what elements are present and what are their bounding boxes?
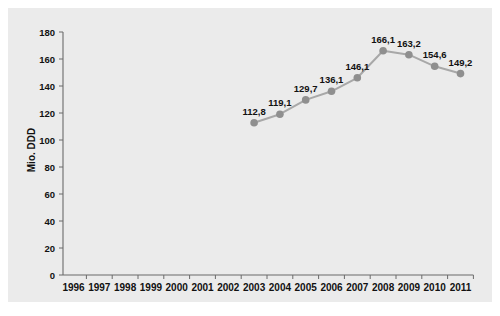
x-tick-label: 2008 [372, 282, 395, 293]
data-point-marker [457, 70, 465, 78]
y-tick-label: 100 [39, 135, 55, 146]
data-point-label: 136,1 [320, 74, 344, 85]
x-tick-label: 2002 [217, 282, 240, 293]
y-axis-title: Mio. DDD [26, 128, 37, 172]
x-tick-label: 2004 [269, 282, 292, 293]
y-tick-label: 160 [39, 54, 55, 65]
x-tick-label: 2000 [166, 282, 189, 293]
x-tick-label: 2011 [450, 282, 472, 293]
y-axis: 020406080100120140160180 [39, 27, 63, 281]
y-tick-label: 80 [44, 162, 55, 173]
data-point-label: 146,1 [345, 61, 369, 72]
data-point-label: 149,2 [449, 57, 473, 68]
y-tick-label: 40 [44, 216, 55, 227]
y-tick-label: 120 [39, 108, 55, 119]
x-tick-label: 2001 [191, 282, 214, 293]
data-point-marker [354, 74, 362, 82]
y-tick-label: 20 [44, 243, 55, 254]
data-point-marker [405, 51, 413, 59]
line-chart: 020406080100120140160180 199619971998199… [0, 0, 500, 316]
data-point-marker [250, 119, 258, 127]
x-tick-label: 1999 [140, 282, 163, 293]
data-point-label: 163,2 [397, 38, 421, 49]
x-tick-label: 2003 [243, 282, 266, 293]
data-point-marker [276, 110, 284, 118]
x-tick-label: 2010 [424, 282, 447, 293]
x-tick-label: 2007 [346, 282, 369, 293]
y-tick-label: 180 [39, 27, 55, 38]
data-point-marker [302, 96, 310, 104]
x-tick-label: 2006 [320, 282, 343, 293]
data-point-label: 129,7 [294, 83, 318, 94]
data-point-label: 166,1 [371, 34, 395, 45]
y-tick-label: 60 [44, 189, 55, 200]
x-tick-label: 2005 [295, 282, 318, 293]
data-point-label: 154,6 [423, 49, 447, 60]
data-point-marker [379, 47, 387, 55]
data-point-marker [328, 87, 336, 95]
x-tick-label: 2009 [398, 282, 421, 293]
data-point-marker [431, 62, 439, 70]
y-tick-label: 0 [50, 270, 55, 281]
chart-figure: 020406080100120140160180 199619971998199… [0, 0, 500, 316]
x-axis: 1996199719981999200020012002200320042005… [62, 275, 473, 293]
x-tick-label: 1997 [88, 282, 111, 293]
data-point-label: 112,8 [242, 106, 265, 117]
x-tick-label: 1998 [114, 282, 137, 293]
x-tick-label: 1996 [62, 282, 85, 293]
y-tick-label: 140 [39, 81, 55, 92]
data-point-label: 119,1 [268, 97, 292, 108]
